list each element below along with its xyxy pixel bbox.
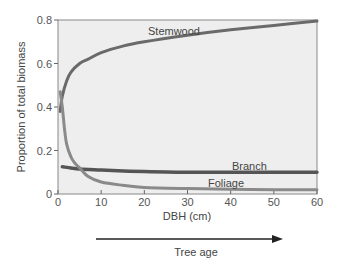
tree-age-label: Tree age <box>174 246 218 258</box>
x-tick-label: 60 <box>311 196 323 208</box>
y-tick-label: 0.8 <box>37 14 52 26</box>
y-tick-label: 0 <box>46 188 52 200</box>
x-tick-label: 30 <box>181 196 193 208</box>
x-tick-label: 50 <box>268 196 280 208</box>
x-tick-label: 10 <box>95 196 107 208</box>
y-tick-label: 0.4 <box>37 101 52 113</box>
x-tick-label: 0 <box>55 196 61 208</box>
plot-area <box>58 20 317 194</box>
biomass-chart: 00.20.40.60.8 0102030405060 Stemwood Bra… <box>0 0 341 267</box>
arrow-head-icon <box>272 235 283 243</box>
y-tick-label: 0.6 <box>37 58 52 70</box>
branch-label: Branch <box>232 160 267 172</box>
foliage-label: Foliage <box>208 177 244 189</box>
stemwood-label: Stemwood <box>148 25 200 37</box>
y-axis-title: Proportion of total biomass <box>15 41 27 172</box>
x-tick-label: 40 <box>225 196 237 208</box>
y-tick-label: 0.2 <box>37 145 52 157</box>
x-tick-label: 20 <box>138 196 150 208</box>
tree-age-arrow <box>96 235 283 243</box>
y-axis: 00.20.40.60.8 <box>37 14 58 200</box>
x-axis-title: DBH (cm) <box>163 210 211 222</box>
